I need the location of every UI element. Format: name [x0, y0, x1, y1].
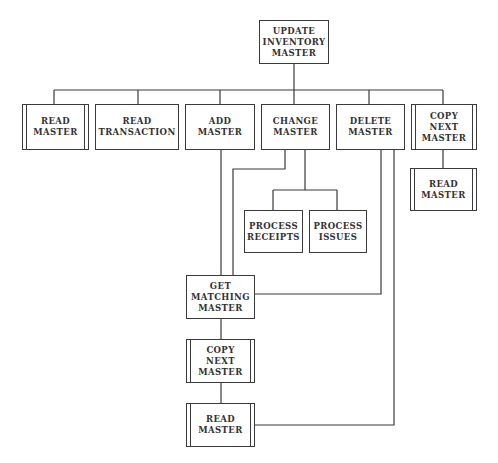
node-change-master: CHANGE MASTER — [261, 104, 330, 150]
node-label: ADD MASTER — [198, 116, 242, 138]
node-process-issues: PROCESS ISSUES — [309, 210, 367, 253]
node-update-inventory-master: UPDATE INVENTORY MASTER — [259, 20, 329, 64]
node-label: COPY NEXT MASTER — [422, 111, 466, 144]
connector-delete-to-read-master-3 — [255, 150, 394, 425]
node-label: GET MATCHING MASTER — [191, 281, 250, 314]
node-copy-next-master-bottom: COPY NEXT MASTER — [186, 339, 255, 383]
node-label: DELETE MASTER — [348, 116, 392, 138]
node-read-transaction: READ TRANSACTION — [95, 104, 179, 150]
node-label: READ MASTER — [421, 179, 465, 201]
node-label: UPDATE INVENTORY MASTER — [263, 26, 326, 59]
node-process-receipts: PROCESS RECEIPTS — [244, 210, 303, 253]
node-read-master-right: READ MASTER — [410, 168, 477, 211]
node-label: CHANGE MASTER — [273, 116, 318, 138]
node-copy-next-master: COPY NEXT MASTER — [411, 104, 477, 150]
node-label: PROCESS ISSUES — [314, 221, 363, 243]
node-label: PROCESS RECEIPTS — [247, 221, 300, 243]
structure-chart: UPDATE INVENTORY MASTER READ MASTER READ… — [0, 0, 498, 463]
node-add-master: ADD MASTER — [185, 104, 255, 150]
node-label: READ TRANSACTION — [98, 116, 175, 138]
node-read-master-bottom: READ MASTER — [186, 403, 255, 447]
node-get-matching-master: GET MATCHING MASTER — [186, 275, 255, 319]
node-delete-master: DELETE MASTER — [336, 104, 405, 150]
node-read-master: READ MASTER — [22, 104, 89, 150]
node-label: COPY NEXT MASTER — [198, 345, 242, 378]
node-label: READ MASTER — [33, 116, 77, 138]
node-label: READ MASTER — [198, 414, 242, 436]
